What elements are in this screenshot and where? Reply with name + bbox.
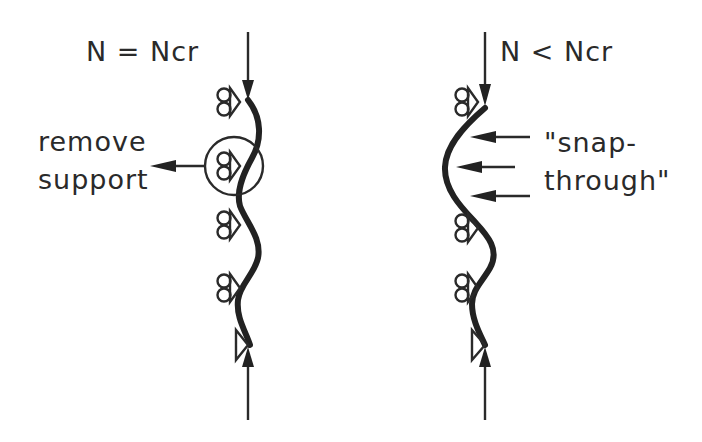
right-panel: N < Ncr "snap- through" xyxy=(445,32,671,420)
load-label-left: N = Ncr xyxy=(86,36,199,67)
annotation-through: through" xyxy=(544,165,671,196)
roller-support-1-right xyxy=(456,88,479,116)
annotation-snap: "snap- xyxy=(544,127,637,158)
bottom-load-arrow-right xyxy=(479,347,491,420)
snap-through-arrow-1 xyxy=(470,131,530,143)
remove-support-arrow xyxy=(150,160,205,172)
annotation-remove: remove xyxy=(38,126,147,157)
bottom-load-arrow-left xyxy=(242,347,254,420)
removed-support-circle xyxy=(205,137,263,195)
snap-through-arrow-2 xyxy=(456,161,515,173)
top-load-arrow-left xyxy=(242,32,254,100)
roller-support-3-left xyxy=(218,211,241,239)
top-load-arrow-right xyxy=(479,32,491,106)
left-panel: N = Ncr remove support xyxy=(38,32,263,420)
roller-support-1-left xyxy=(218,88,241,116)
load-label-right: N < Ncr xyxy=(500,36,613,67)
annotation-support: support xyxy=(38,164,149,195)
roller-support-2-left-circled xyxy=(218,152,241,180)
snapped-column-right xyxy=(445,108,494,345)
buckling-diagram: N = Ncr remove support xyxy=(0,0,702,442)
snap-through-arrow-3 xyxy=(470,190,530,202)
